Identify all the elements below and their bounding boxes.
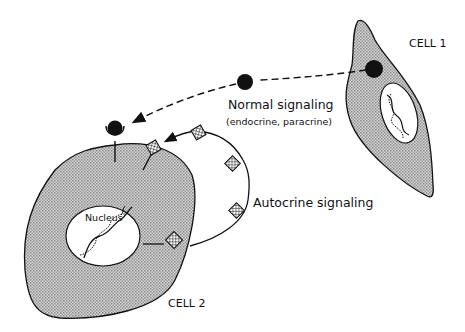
normal-signaling-path [134, 70, 366, 122]
normal-signaling-label: Normal signaling [228, 99, 334, 112]
autocrine-signaling-label: Autocrine signaling [253, 197, 373, 210]
nucleus-label: Nucleus [85, 213, 123, 223]
cell-1-label: CELL 1 [409, 38, 446, 49]
normal-signaling-sublabel: (endocrine, paracrine) [226, 117, 332, 127]
cell-2 [24, 144, 194, 318]
signaling-diagram: CELL 1 Normal signaling (endocrine, para… [0, 0, 465, 332]
cell-2-label: CELL 2 [168, 298, 205, 309]
